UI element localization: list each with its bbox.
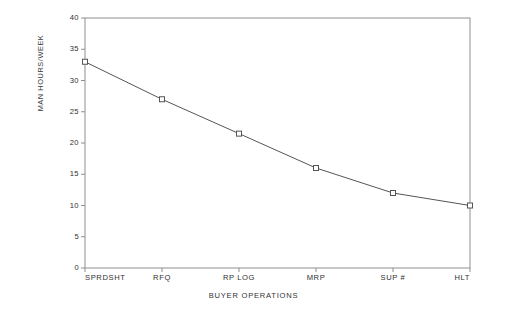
- data-point-marker: [237, 131, 242, 136]
- x-tick-marks: [85, 268, 470, 272]
- y-tick-marks: [81, 18, 85, 268]
- data-point-marker: [83, 59, 88, 64]
- data-point-marker: [314, 166, 319, 171]
- plot-area: [0, 0, 507, 317]
- data-point-marker: [468, 203, 473, 208]
- data-point-marker: [391, 191, 396, 196]
- plot-frame: [85, 18, 470, 268]
- x-axis-title: BUYER OPERATIONS: [0, 291, 507, 300]
- data-line-series-1: [85, 62, 470, 206]
- data-point-markers: [83, 59, 473, 208]
- data-point-marker: [160, 97, 165, 102]
- chart-figure: MAN HOURS/WEEK 0510152025303540 SPRDSHTR…: [0, 0, 507, 317]
